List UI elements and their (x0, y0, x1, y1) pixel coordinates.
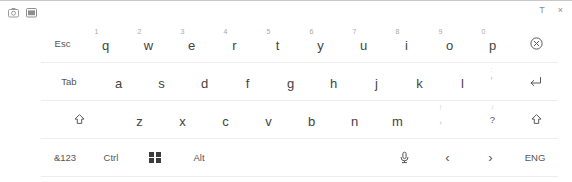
key-q-label: q (102, 39, 109, 52)
titlebar: T × (0, 1, 572, 25)
key-w-secondary-label: 2 (138, 28, 142, 35)
key-tab-label: Tab (61, 77, 76, 87)
key-ctrl-label: Ctrl (104, 153, 119, 163)
key-t-secondary-label: 5 (267, 28, 271, 35)
key-y-secondary-label: 6 (310, 28, 314, 35)
key-w[interactable]: 2w (127, 25, 170, 63)
key-q-secondary-label: 1 (95, 28, 99, 35)
key-comma-label: , (439, 114, 442, 125)
key-s-label: s (158, 77, 165, 90)
key-apostrophe-label: ' (490, 76, 492, 87)
key-alt[interactable]: Alt (177, 139, 221, 177)
row-asdf: Tabasdfghjkl:' (0, 63, 572, 101)
key-b[interactable]: b (290, 101, 333, 139)
titlebar-left-controls (8, 7, 37, 18)
key-space[interactable] (221, 139, 383, 177)
key-r[interactable]: 4r (213, 25, 256, 63)
key-l-label: l (461, 77, 464, 90)
key-ctrl[interactable]: Ctrl (89, 139, 133, 177)
key-backspace[interactable] (514, 25, 558, 63)
key-esc[interactable]: Esc (41, 25, 84, 63)
key-arrow-right-label: › (488, 151, 492, 164)
key-u-secondary-label: 7 (353, 28, 357, 35)
key-a-label: a (115, 77, 122, 90)
key-alt-label: Alt (193, 153, 204, 163)
key-microphone[interactable] (383, 139, 426, 177)
key-shift-right[interactable] (514, 101, 558, 139)
key-s[interactable]: s (140, 63, 183, 101)
key-w-label: w (144, 39, 153, 52)
key-v[interactable]: v (247, 101, 290, 139)
key-tab[interactable]: Tab (41, 63, 97, 101)
key-arrow-left[interactable]: ‹ (426, 139, 469, 177)
enter-icon (528, 74, 543, 89)
key-c[interactable]: c (204, 101, 247, 139)
key-o[interactable]: 9o (428, 25, 471, 63)
shift-right-icon (529, 112, 544, 127)
key-question-secondary-label: / (492, 105, 494, 112)
key-y[interactable]: 6y (299, 25, 342, 63)
key-f-label: f (246, 77, 250, 90)
key-g[interactable]: g (269, 63, 312, 101)
key-c-label: c (222, 115, 229, 128)
key-m[interactable]: m (376, 101, 419, 139)
key-p[interactable]: 0p (471, 25, 514, 63)
key-i-label: i (405, 39, 408, 52)
key-p-label: p (489, 39, 496, 52)
key-x[interactable]: x (161, 101, 204, 139)
keyboard-layout-icon[interactable] (8, 7, 19, 18)
key-p-secondary-label: 0 (482, 28, 486, 35)
key-symbols[interactable]: &123 (41, 139, 89, 177)
key-shift-left[interactable] (41, 101, 118, 139)
microphone-icon (397, 150, 412, 165)
keyboard-dock-icon[interactable] (26, 7, 37, 18)
key-a[interactable]: a (97, 63, 140, 101)
close-icon[interactable]: × (558, 6, 563, 15)
key-x-label: x (179, 115, 186, 128)
key-v-label: v (265, 115, 272, 128)
key-apostrophe-secondary-label: : (491, 67, 493, 74)
key-e-label: e (188, 39, 195, 52)
key-comma-secondary-label: ! (440, 105, 442, 112)
key-e[interactable]: 3e (170, 25, 213, 63)
key-z[interactable]: z (118, 101, 161, 139)
key-e-secondary-label: 3 (181, 28, 185, 35)
key-h[interactable]: h (312, 63, 355, 101)
key-n-label: n (351, 115, 358, 128)
key-t-label: t (276, 39, 280, 52)
key-r-label: r (232, 39, 236, 52)
key-q[interactable]: 1q (84, 25, 127, 63)
key-question[interactable]: /? (471, 101, 514, 139)
key-windows[interactable] (133, 139, 177, 177)
key-t[interactable]: 5t (256, 25, 299, 63)
row-qwerty: Esc1q2w3e4r5t6y7u8i9o0p (0, 25, 572, 63)
key-h-label: h (330, 77, 337, 90)
key-d[interactable]: d (183, 63, 226, 101)
row-bottom: &123CtrlAlt‹›ENG (0, 139, 572, 177)
key-o-secondary-label: 9 (439, 28, 443, 35)
key-u-label: u (360, 39, 367, 52)
key-k[interactable]: k (398, 63, 441, 101)
key-arrow-right[interactable]: › (469, 139, 512, 177)
key-question-label: ? (490, 115, 495, 125)
key-apostrophe[interactable]: :' (470, 63, 513, 101)
windows-logo-icon (149, 152, 161, 164)
key-d-label: d (201, 77, 208, 90)
key-y-label: y (317, 39, 324, 52)
key-j-label: j (375, 77, 378, 90)
key-enter[interactable] (513, 63, 558, 101)
key-m-label: m (392, 115, 403, 128)
key-j[interactable]: j (355, 63, 398, 101)
touch-keyboard-window: T × Esc1q2w3e4r5t6y7u8i9o0pTabasdfghjkl:… (0, 0, 572, 182)
key-n[interactable]: n (333, 101, 376, 139)
key-i-secondary-label: 8 (396, 28, 400, 35)
key-language[interactable]: ENG (512, 139, 558, 177)
key-u[interactable]: 7u (342, 25, 385, 63)
resize-handle-icon[interactable]: T (539, 6, 545, 15)
key-arrow-left-label: ‹ (445, 151, 449, 164)
key-comma[interactable]: !, (419, 101, 462, 139)
key-f[interactable]: f (226, 63, 269, 101)
key-g-label: g (287, 77, 294, 90)
key-i[interactable]: 8i (385, 25, 428, 63)
key-r-secondary-label: 4 (224, 28, 228, 35)
